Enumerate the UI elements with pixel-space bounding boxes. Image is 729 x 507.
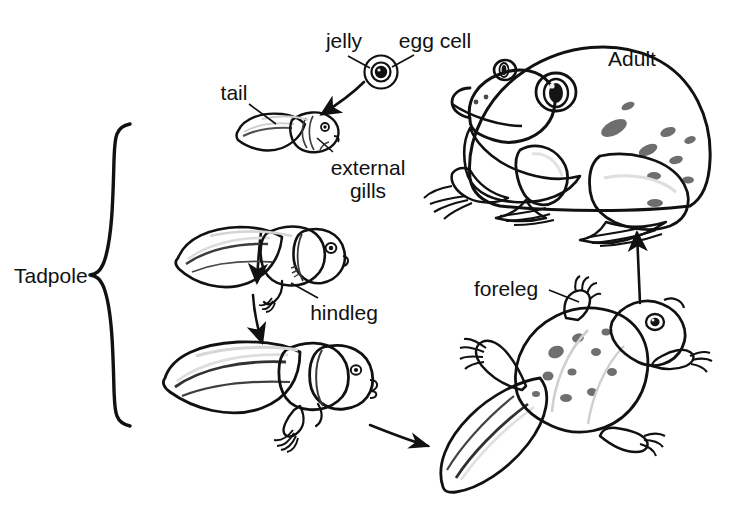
arrow-froglet-to-adult (637, 233, 640, 303)
tadpole-hindlegs-illustration (176, 227, 348, 313)
life-cycle-diagram: jelly egg cell tail (0, 0, 729, 507)
label-jelly: jelly (325, 29, 363, 52)
froglet-illustration (441, 276, 712, 492)
tadpole-brace (90, 124, 130, 426)
label-egg-cell: egg cell (399, 29, 471, 52)
label-foreleg: foreleg (474, 277, 538, 300)
label-external-gills-line1: external (331, 156, 406, 179)
adult-frog-illustration (424, 47, 710, 246)
tadpole-late-illustration (163, 342, 377, 452)
label-external-gills-line2: gills (350, 179, 386, 202)
label-hindleg: hindleg (310, 301, 378, 324)
label-tail: tail (221, 81, 248, 104)
hindleg-leader-line (291, 283, 318, 298)
arrow-late-to-froglet (370, 425, 428, 446)
frog-life-cycle-figure: jelly egg cell tail (0, 0, 729, 507)
arrow-egg-to-tadpole (322, 82, 364, 114)
tadpole-early-illustration (237, 112, 339, 152)
egg-cell-leader-line (392, 55, 414, 67)
egg-cell-dot (375, 66, 387, 78)
label-adult: Adult (608, 47, 656, 70)
label-tadpole: Tadpole (14, 264, 88, 287)
egg-illustration (365, 56, 398, 89)
arrow-hindlegs-to-late (253, 295, 262, 342)
